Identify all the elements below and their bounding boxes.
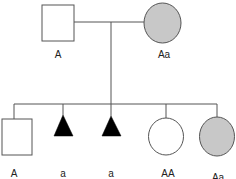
father-square (42, 5, 74, 41)
father-label: A (55, 49, 62, 60)
mother-circle (144, 3, 181, 43)
child-3-triangle (102, 116, 121, 136)
child-2-triangle (54, 115, 73, 136)
child-5-label: Aa (212, 172, 225, 179)
child-1-square (2, 119, 32, 155)
child-3-label: a (108, 168, 114, 179)
child-2-label: a (60, 168, 66, 179)
child-5-circle (200, 117, 235, 156)
child-1-label: A (11, 168, 18, 179)
mother-label: Aa (158, 49, 171, 60)
child-4-label: AA (161, 168, 175, 179)
child-4-circle (149, 118, 184, 155)
pedigree-chart: A Aa A a a AA Aa (0, 0, 236, 179)
